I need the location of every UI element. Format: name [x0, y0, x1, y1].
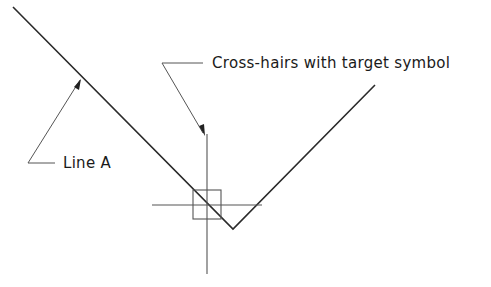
crosshairs-label: Cross-hairs with target symbol — [212, 54, 450, 72]
crosshairs-arrowhead-icon — [199, 124, 205, 136]
line-a-leader — [28, 80, 80, 163]
diagram-canvas — [0, 0, 491, 287]
line-a-label: Line A — [63, 154, 111, 172]
crosshairs-leader — [162, 63, 203, 133]
